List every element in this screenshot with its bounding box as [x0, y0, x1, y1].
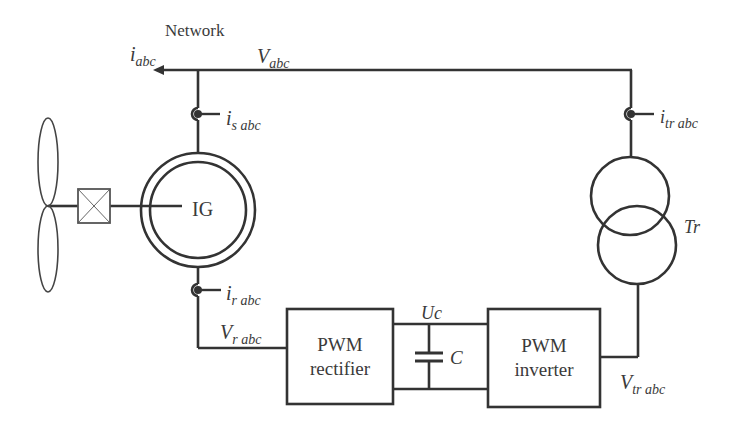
transformer-secondary-circle: [598, 206, 676, 284]
rectifier-label: PWMrectifier: [287, 333, 393, 381]
generator-label: IG: [192, 199, 213, 219]
transformer-current-label: itr abc: [660, 108, 698, 131]
blade-top: [38, 118, 58, 206]
blade-bottom: [38, 206, 58, 292]
inverter-label: PWMinverter: [488, 334, 600, 382]
capacitor-label: C: [450, 348, 463, 367]
stator-current-label: is abc: [226, 108, 261, 133]
network-label: Network: [165, 22, 224, 39]
dc-voltage-label: Uc: [421, 304, 442, 322]
transformer-primary-circle: [591, 157, 669, 235]
network-voltage-label: Vabc: [257, 46, 289, 71]
rotor-voltage-label: Vr abc: [220, 322, 261, 347]
network-current-label: iabc: [130, 44, 156, 69]
rotor-current-label: ir abc: [226, 283, 261, 308]
transformer-voltage-label: Vtr abc: [620, 372, 665, 397]
transformer-label: Tr: [684, 218, 700, 236]
diagram-canvas: Network iabc Vabc is abc IG ir abc Vr ab…: [0, 0, 736, 431]
